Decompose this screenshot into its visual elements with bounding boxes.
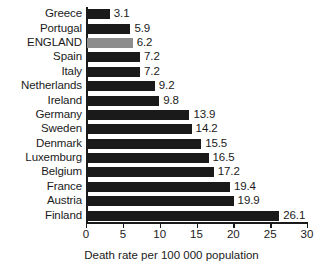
category-label: Finland bbox=[45, 210, 82, 222]
category-label: Spain bbox=[53, 52, 82, 64]
plot-area: Greece3.1Portugal5.9ENGLAND6.2Spain7.2It… bbox=[0, 0, 319, 275]
value-label: 17.2 bbox=[218, 167, 240, 179]
bar bbox=[87, 182, 230, 192]
category-label: Luxemburg bbox=[25, 152, 82, 164]
category-label: Ireland bbox=[48, 95, 82, 107]
category-label: Belgium bbox=[41, 167, 82, 179]
x-tick bbox=[233, 223, 234, 228]
x-tick bbox=[270, 223, 271, 228]
bar bbox=[87, 139, 201, 149]
bar-row: France19.4 bbox=[0, 180, 319, 194]
bar-row: Sweden14.2 bbox=[0, 122, 319, 136]
bar-row: Belgium17.2 bbox=[0, 165, 319, 179]
bar-row: Denmark15.5 bbox=[0, 137, 319, 151]
value-label: 5.9 bbox=[134, 23, 150, 35]
x-tick-label: 0 bbox=[83, 229, 89, 241]
value-label: 19.4 bbox=[234, 181, 256, 193]
bar-row: Finland26.1 bbox=[0, 208, 319, 222]
value-label: 7.2 bbox=[144, 66, 160, 78]
category-label: ENGLAND bbox=[27, 37, 82, 49]
bar bbox=[87, 24, 130, 34]
value-label: 13.9 bbox=[193, 109, 215, 121]
bar bbox=[87, 153, 209, 163]
value-label: 15.5 bbox=[205, 138, 227, 150]
value-label: 14.2 bbox=[196, 124, 218, 136]
x-tick-label: 30 bbox=[301, 229, 314, 241]
category-label: Greece bbox=[45, 8, 82, 20]
bar-row: Spain7.2 bbox=[0, 50, 319, 64]
category-label: Netherlands bbox=[21, 80, 82, 92]
bar-row: Luxemburg16.5 bbox=[0, 151, 319, 165]
bar-row: Austria19.9 bbox=[0, 194, 319, 208]
bar bbox=[87, 9, 110, 19]
bar-row: ENGLAND6.2 bbox=[0, 36, 319, 50]
value-label: 16.5 bbox=[213, 152, 235, 164]
bar bbox=[87, 110, 189, 120]
category-label: Portugal bbox=[40, 23, 82, 35]
value-label: 9.2 bbox=[159, 80, 175, 92]
bar bbox=[87, 96, 159, 106]
bar-chart: Greece3.1Portugal5.9ENGLAND6.2Spain7.2It… bbox=[0, 0, 319, 275]
category-label: Sweden bbox=[41, 124, 82, 136]
x-tick bbox=[197, 223, 198, 228]
bar-row: Netherlands9.2 bbox=[0, 79, 319, 93]
value-label: 3.1 bbox=[114, 8, 130, 20]
x-tick bbox=[160, 223, 161, 228]
bar bbox=[87, 81, 155, 91]
category-label: Italy bbox=[61, 66, 82, 78]
bar-row: Italy7.2 bbox=[0, 65, 319, 79]
bar bbox=[87, 67, 140, 77]
x-tick bbox=[307, 223, 308, 228]
category-label: Germany bbox=[35, 109, 82, 121]
x-tick-label: 25 bbox=[264, 229, 277, 241]
category-label: Denmark bbox=[36, 138, 82, 150]
bar-row: Portugal5.9 bbox=[0, 21, 319, 35]
category-label: Austria bbox=[47, 196, 82, 208]
value-label: 6.2 bbox=[137, 37, 153, 49]
bar bbox=[87, 124, 192, 134]
x-tick-label: 10 bbox=[153, 229, 166, 241]
value-label: 9.8 bbox=[163, 95, 179, 107]
value-label: 7.2 bbox=[144, 52, 160, 64]
x-tick-label: 15 bbox=[190, 229, 203, 241]
x-tick bbox=[123, 223, 124, 228]
category-label: France bbox=[47, 181, 82, 193]
bar-row: Ireland9.8 bbox=[0, 93, 319, 107]
x-tick-label: 5 bbox=[120, 229, 126, 241]
value-label: 19.9 bbox=[238, 196, 260, 208]
x-axis-title-text: Death rate per 100 000 population bbox=[60, 250, 259, 262]
bar-highlight bbox=[87, 38, 133, 48]
bar-rows: Greece3.1Portugal5.9ENGLAND6.2Spain7.2It… bbox=[0, 7, 319, 223]
bar bbox=[87, 52, 140, 62]
x-tick-label: 20 bbox=[227, 229, 240, 241]
x-tick bbox=[86, 223, 87, 228]
bar bbox=[87, 167, 214, 177]
x-axis-title: Death rate per 100 000 population bbox=[0, 250, 319, 262]
bar-row: Greece3.1 bbox=[0, 7, 319, 21]
bar-row: Germany13.9 bbox=[0, 108, 319, 122]
bar bbox=[87, 211, 279, 221]
value-label: 26.1 bbox=[283, 210, 305, 222]
bar bbox=[87, 196, 234, 206]
